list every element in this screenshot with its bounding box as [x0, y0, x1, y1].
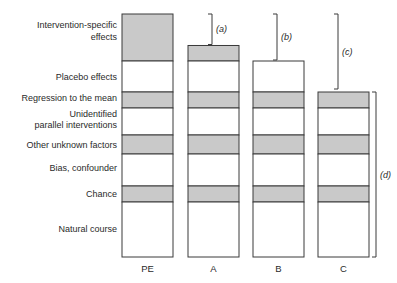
bracket-label: (a)	[216, 24, 227, 34]
bracket-d: (d)	[372, 92, 391, 257]
segment-regression	[122, 92, 173, 108]
column-labels: PEABC	[141, 263, 347, 274]
column-a	[188, 45, 239, 257]
segment-bias	[188, 154, 239, 186]
segment-chance	[253, 186, 304, 202]
segment-bias	[122, 154, 173, 186]
effects-diagram: Intervention-specificeffectsPlacebo effe…	[0, 0, 397, 283]
segment-intervention	[122, 14, 173, 61]
segment-parallel	[188, 108, 239, 135]
component-label-chance: Chance	[86, 189, 117, 199]
bracket-line	[372, 92, 376, 257]
component-label-regression: Regression to the mean	[21, 93, 117, 103]
column-label-c: C	[340, 263, 347, 274]
column-c	[318, 92, 369, 257]
component-label-intervention: effects	[91, 32, 118, 42]
bracket-label: (b)	[281, 32, 292, 42]
component-label-intervention: Intervention-specific	[37, 20, 118, 30]
bracket-b: (b)	[273, 14, 292, 60]
segment-chance	[318, 186, 369, 202]
segment-unknown	[253, 135, 304, 154]
segment-bias	[253, 154, 304, 186]
segment-natural	[188, 202, 239, 257]
component-label-parallel: Unidentified	[69, 109, 117, 119]
segment-parallel	[318, 108, 369, 135]
column-pe	[122, 14, 173, 257]
column-b	[253, 61, 304, 257]
bracket-line	[334, 14, 338, 89]
component-label-parallel: parallel interventions	[34, 120, 117, 130]
bracket-c: (c)	[334, 14, 353, 89]
segment-chance	[122, 186, 173, 202]
bracket-a: (a)	[208, 14, 227, 44]
segment-unknown	[188, 135, 239, 154]
segment-intervention	[188, 45, 239, 61]
column-label-a: A	[210, 263, 217, 274]
segment-bias	[318, 154, 369, 186]
segment-regression	[318, 92, 369, 108]
segment-placebo	[188, 61, 239, 92]
segment-regression	[253, 92, 304, 108]
segment-unknown	[318, 135, 369, 154]
segment-natural	[253, 202, 304, 257]
column-bars	[122, 14, 369, 257]
component-label-unknown: Other unknown factors	[26, 140, 117, 150]
segment-natural	[318, 202, 369, 257]
component-labels: Intervention-specificeffectsPlacebo effe…	[21, 20, 117, 234]
segment-regression	[188, 92, 239, 108]
component-label-placebo: Placebo effects	[56, 72, 118, 82]
component-label-natural: Natural course	[58, 224, 117, 234]
segment-unknown	[122, 135, 173, 154]
bracket-line	[208, 14, 212, 44]
segment-parallel	[253, 108, 304, 135]
segment-placebo	[253, 61, 304, 92]
bracket-line	[273, 14, 277, 60]
segment-natural	[122, 202, 173, 257]
column-label-b: B	[275, 263, 281, 274]
segment-placebo	[122, 61, 173, 92]
segment-parallel	[122, 108, 173, 135]
segment-chance	[188, 186, 239, 202]
column-label-pe: PE	[141, 263, 154, 274]
bracket-label: (c)	[342, 47, 353, 57]
bracket-label: (d)	[380, 170, 391, 180]
component-label-bias: Bias, confounder	[49, 163, 117, 173]
